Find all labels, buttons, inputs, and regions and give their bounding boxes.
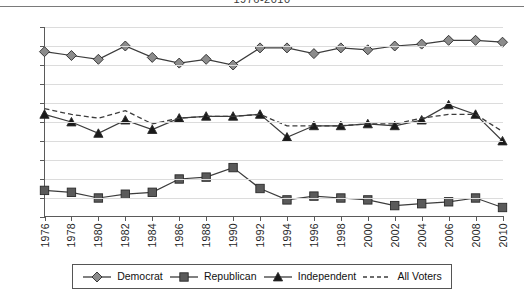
x-axis-tick-label: 1978 <box>65 223 77 248</box>
x-axis-tick-label: 1992 <box>254 223 266 248</box>
chart-legend: DemocratRepublicanIndependentAll Voters <box>72 264 452 289</box>
x-axis-tick-label: 1988 <box>200 223 212 248</box>
x-axis-tick-label: 2006 <box>443 223 455 248</box>
data-point-marker <box>498 203 506 211</box>
data-point-marker <box>256 184 264 192</box>
y-tick-mark <box>40 84 45 85</box>
x-tick-mark <box>71 216 72 221</box>
data-point-marker <box>147 52 157 62</box>
data-point-marker <box>444 100 453 109</box>
x-axis-tick-label: 1994 <box>281 223 293 248</box>
x-axis-tick-label: 1980 <box>92 223 104 248</box>
data-point-marker <box>282 43 292 53</box>
data-point-marker <box>309 49 319 59</box>
data-point-marker <box>174 58 184 68</box>
diamond-marker <box>82 271 112 283</box>
chart-container: 1976-2010 0%10%20%30%40%50%60%70%80%90%1… <box>0 0 524 298</box>
x-axis-tick-label: 1984 <box>146 223 158 248</box>
series-line <box>45 168 503 208</box>
x-axis-tick-label: 1986 <box>173 223 185 248</box>
series-all-voters <box>45 109 503 132</box>
gridline <box>44 141 503 142</box>
data-point-marker <box>94 129 103 138</box>
x-tick-mark <box>179 216 180 221</box>
x-tick-mark <box>422 216 423 221</box>
x-tick-mark <box>152 216 153 221</box>
legend-item-all-voters[interactable]: All Voters <box>362 271 441 283</box>
y-tick-mark <box>40 27 45 28</box>
data-point-marker <box>67 188 75 196</box>
legend-label: Republican <box>204 271 257 282</box>
data-point-marker <box>471 35 481 45</box>
x-axis-tick-label: 2000 <box>362 223 374 248</box>
x-axis-tick-label: 2008 <box>470 223 482 248</box>
series-republican <box>40 163 506 211</box>
y-tick-mark <box>40 122 45 123</box>
gridline <box>44 179 503 180</box>
x-tick-mark <box>233 216 234 221</box>
gridline <box>44 84 503 85</box>
legend-label: Democrat <box>117 271 163 282</box>
y-tick-mark <box>40 46 45 47</box>
x-tick-mark <box>368 216 369 221</box>
gridline <box>44 65 503 66</box>
x-axis-tick-label: 1996 <box>308 223 320 248</box>
x-tick-mark <box>260 216 261 221</box>
legend-item-democrat[interactable]: Democrat <box>82 271 163 283</box>
x-tick-mark <box>98 216 99 221</box>
data-point-marker <box>255 43 265 53</box>
data-point-marker <box>66 51 76 61</box>
series-line <box>45 40 503 65</box>
x-tick-mark <box>449 216 450 221</box>
data-point-marker <box>283 196 291 204</box>
data-point-marker <box>148 125 157 134</box>
data-point-marker <box>417 200 425 208</box>
data-point-marker <box>202 173 210 181</box>
y-tick-mark <box>40 141 45 142</box>
legend-label: Independent <box>298 271 356 282</box>
data-point-marker <box>444 35 454 45</box>
gridline <box>44 103 503 104</box>
series-line <box>45 109 503 132</box>
data-point-marker <box>417 39 427 49</box>
gridline <box>44 122 503 123</box>
gridline <box>44 198 503 199</box>
legend-label: All Voters <box>397 271 441 282</box>
data-point-marker <box>40 47 50 57</box>
data-point-marker <box>229 163 237 171</box>
x-axis-tick-label: 2010 <box>497 223 509 248</box>
data-point-marker <box>364 196 372 204</box>
x-axis-tick-label: 2004 <box>416 223 428 248</box>
x-tick-mark <box>476 216 477 221</box>
data-point-marker <box>148 188 156 196</box>
gridline <box>44 27 503 28</box>
top-divider <box>0 6 524 7</box>
page-title: 1976-2010 <box>0 0 524 5</box>
x-tick-mark <box>314 216 315 221</box>
triangle-marker <box>263 271 293 283</box>
x-tick-mark <box>125 216 126 221</box>
data-point-marker <box>310 192 318 200</box>
data-point-marker <box>391 201 399 209</box>
x-axis-tick-label: 1976 <box>39 223 51 248</box>
dashed-line <box>362 271 392 283</box>
y-tick-mark <box>40 65 45 66</box>
y-tick-mark <box>40 103 45 104</box>
square-marker <box>169 271 199 283</box>
legend-item-independent[interactable]: Independent <box>263 271 356 283</box>
data-point-marker <box>93 54 103 64</box>
data-point-marker <box>336 43 346 53</box>
x-axis-tick-label: 1990 <box>227 223 239 248</box>
x-tick-mark <box>503 216 504 221</box>
gridline <box>44 160 503 161</box>
data-point-marker <box>40 110 49 119</box>
x-axis-tick-label: 1998 <box>335 223 347 248</box>
x-tick-mark <box>341 216 342 221</box>
y-tick-mark <box>40 198 45 199</box>
y-tick-mark <box>40 179 45 180</box>
x-tick-mark <box>395 216 396 221</box>
data-point-marker <box>201 54 211 64</box>
gridline <box>44 46 503 47</box>
legend-item-republican[interactable]: Republican <box>169 271 257 283</box>
x-axis-tick-label: 1982 <box>119 223 131 248</box>
